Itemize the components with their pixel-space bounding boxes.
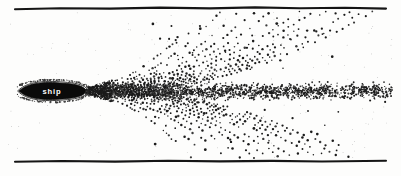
wake-diagram-canvas: ship [0, 0, 401, 176]
top-channel-wall [15, 7, 386, 9]
ship-wake-figure: ship [0, 0, 401, 176]
bottom-channel-wall [15, 161, 386, 162]
ship-hull: ship [18, 81, 89, 100]
ship-label: ship [42, 87, 61, 96]
